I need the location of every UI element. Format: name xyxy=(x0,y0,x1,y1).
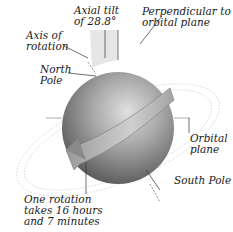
perpendicular-label: Perpendicular to orbital plane xyxy=(142,6,231,28)
axial-tilt-wedge xyxy=(90,30,118,68)
rotation-period-label: One rotation takes 16 hours and 7 minute… xyxy=(24,194,103,227)
south-pole-label: South Pole xyxy=(174,175,231,186)
orbital-plane-label: Orbital plane xyxy=(190,133,228,155)
north-pole-label: North Pole xyxy=(40,64,72,86)
planet-diagram: Axial tilt of 28.8° Perpendicular to orb… xyxy=(0,0,233,232)
axial-tilt-label: Axial tilt of 28.8° xyxy=(74,5,119,27)
axis-of-rotation-label: Axis of rotation xyxy=(26,30,68,52)
